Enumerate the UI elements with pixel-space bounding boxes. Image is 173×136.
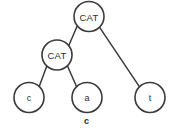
node-label-leaf-a: a xyxy=(84,93,89,103)
tree-node-leaf-t: t xyxy=(135,83,165,113)
figure-caption: c xyxy=(0,114,173,128)
tree-node-root: CAT xyxy=(74,2,104,32)
edge-inner-to-leaf-a xyxy=(68,66,77,86)
node-label-inner: CAT xyxy=(48,50,67,61)
edge-root-to-inner xyxy=(69,26,78,46)
edge-inner-to-leaf-c xyxy=(39,66,47,87)
figure-container: CAT CAT c a t c xyxy=(0,0,173,136)
tree-node-leaf-a: a xyxy=(72,83,102,113)
node-label-root: CAT xyxy=(80,12,99,23)
tree-node-inner: CAT xyxy=(42,40,72,70)
tree-node-leaf-c: c xyxy=(14,83,44,113)
node-label-leaf-c: c xyxy=(27,93,32,103)
edge-root-to-leaf-t xyxy=(100,28,139,87)
